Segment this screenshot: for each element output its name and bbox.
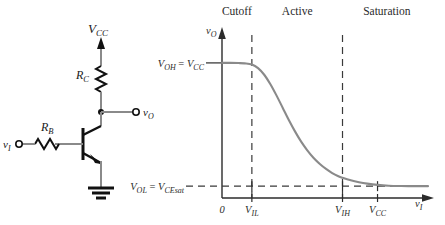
figure-svg: VCC RC vO RB — [0, 0, 445, 225]
y-tick-label-voh: VOH = VCC — [158, 58, 205, 72]
y-tick-label-vol: VOL = VCEsat — [130, 181, 185, 195]
vcc-label: VCC — [88, 21, 109, 38]
axis-ticks — [252, 181, 378, 202]
x-tick-label-vcc: VCC — [369, 204, 387, 218]
region-label-cutoff: Cutoff — [222, 5, 252, 17]
x-tick-label-vih: VIH — [335, 204, 351, 218]
rc-resistor-icon — [96, 66, 106, 92]
bjt-inverter-schematic: VCC RC vO RB — [3, 21, 154, 198]
y-axis-arrow-icon — [218, 27, 226, 39]
output-node-label: vO — [143, 106, 154, 121]
rb-label: RB — [40, 120, 54, 136]
x-tick-label-vil: VIL — [245, 204, 259, 218]
input-node-label: vI — [3, 138, 11, 153]
region-label-saturation: Saturation — [363, 5, 411, 17]
figure-container: VCC RC vO RB — [0, 0, 445, 225]
vtc-chart: Cutoff Active Saturation vO vI 0 VIL VIH… — [130, 5, 434, 218]
y-axis-title: vO — [206, 25, 217, 39]
transistor-collector-lead — [83, 126, 101, 135]
rc-label: RC — [75, 68, 89, 84]
region-label-active: Active — [282, 5, 313, 17]
vcc-arrow-icon — [97, 37, 105, 49]
x-axis-title: vI — [415, 198, 423, 212]
x-axis-arrow-icon — [422, 194, 434, 202]
transistor-emitter-lead — [83, 153, 101, 163]
x-tick-label-0: 0 — [219, 204, 225, 215]
vtc-curve — [222, 63, 428, 186]
output-terminal-icon — [133, 109, 139, 115]
input-terminal-icon — [16, 141, 22, 147]
ground-icon — [88, 188, 114, 198]
